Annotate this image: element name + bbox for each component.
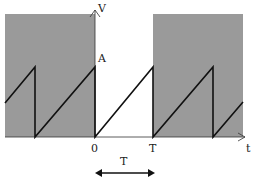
x-axis-label: t [246,142,251,155]
y-axis-label: V [97,2,107,15]
origin-label: 0 [91,142,98,155]
amplitude-label: A [97,52,107,65]
arrow-left-icon [95,169,102,177]
sawtooth-diagram: V A 0 T t T [0,0,255,184]
arrow-right-icon [148,169,155,177]
period-tick-label: T [149,142,157,155]
period-span-label: T [120,155,128,168]
